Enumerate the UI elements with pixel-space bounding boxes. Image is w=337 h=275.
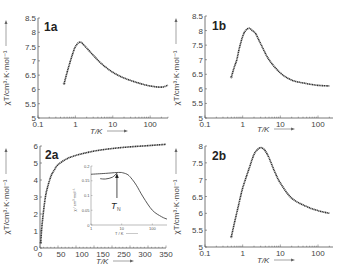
panel-2b: 55.566.577.580.11101002bχT/cm³·K·mol⁻¹T/… xyxy=(172,142,333,265)
y-tick-label: 8 xyxy=(199,27,204,36)
y-tick-label: 6 xyxy=(199,85,204,94)
x-axis-label: T/K xyxy=(96,257,109,266)
x-tick-label: 1 xyxy=(240,120,245,129)
x-tick-label: 250 xyxy=(117,250,131,259)
x-tick-label: 0.1 xyxy=(199,120,211,129)
data-series xyxy=(231,148,329,237)
y-tick-label: 4 xyxy=(34,176,39,185)
x-tick-label: 100 xyxy=(143,120,157,129)
y-tick-label: 7.5 xyxy=(25,43,37,52)
x-axis-label: T/K xyxy=(257,256,270,265)
y-tick-label: 6.5 xyxy=(192,70,204,79)
inset-x-axis-label: T / K xyxy=(115,231,124,236)
y-tick-label: 7 xyxy=(199,56,204,65)
x-tick-label: 0 xyxy=(38,250,43,259)
x-tick-label: 10 xyxy=(276,249,285,258)
y-tick-label: 6 xyxy=(32,85,37,94)
y-axis-label: χT/cm³·K·mol⁻¹ xyxy=(2,179,11,234)
x-tick-label: 1 xyxy=(73,120,78,129)
x-tick-label: 10 xyxy=(276,120,285,129)
x-tick-label: 50 xyxy=(57,250,66,259)
x-axis-label: T/K xyxy=(257,125,270,134)
data-series xyxy=(231,28,329,86)
panel-label: 2b xyxy=(212,149,226,163)
y-tick-label: 8.5 xyxy=(25,14,37,23)
data-series xyxy=(64,42,168,87)
x-tick-label: 350 xyxy=(159,250,173,259)
panel-label: 1b xyxy=(212,19,226,33)
y-tick-label: 7 xyxy=(199,176,204,185)
y-tick-label: 8 xyxy=(32,28,37,37)
panel-1b: 55.566.577.588.50.11101001bχT/cm³·K·mol⁻… xyxy=(172,12,333,134)
y-tick-label: 8 xyxy=(199,142,204,151)
y-tick-label: 6 xyxy=(34,142,39,151)
panel-label: 2a xyxy=(45,148,59,162)
y-axis-label: χT/cm³·K·mol⁻¹ xyxy=(172,179,181,234)
y-tick-label: 5.5 xyxy=(25,100,37,109)
y-tick-label: 6.5 xyxy=(25,71,37,80)
inset-y-tick-label: 0.2 xyxy=(84,164,90,169)
y-tick-label: 1 xyxy=(34,227,39,236)
x-tick-label: 100 xyxy=(311,120,325,129)
panel-label: 1a xyxy=(44,20,58,34)
y-tick-label: 5.5 xyxy=(192,226,204,235)
y-tick-label: 8.5 xyxy=(192,12,204,21)
panel-2a: 01234560501001502503003502aχT/cm³·K·mol⁻… xyxy=(2,142,173,266)
y-tick-label: 6 xyxy=(199,209,204,218)
tn-annotation-subscript: N xyxy=(117,206,121,212)
magnetic-susceptibility-figure: 55.566.577.588.50.11101001aχT/cm³·K·mol⁻… xyxy=(0,0,337,275)
inset-y-tick-label: 0.15 xyxy=(82,178,91,183)
inset-y-tick-label: 0.05 xyxy=(82,208,91,213)
y-axis-label: χT/cm³·K·mol⁻¹ xyxy=(2,50,11,105)
y-axis-label: χT/cm³·K·mol⁻¹ xyxy=(172,50,181,105)
y-tick-label: 5.5 xyxy=(192,99,204,108)
x-tick-label: 300 xyxy=(138,250,152,259)
inset-y-tick-label: 0.1 xyxy=(84,193,90,198)
x-axis-label: T/K xyxy=(90,127,103,136)
y-tick-label: 3 xyxy=(34,193,39,202)
inset-y-axis-label: χ / cm³·mol⁻¹ xyxy=(72,188,77,212)
x-tick-label: 10 xyxy=(108,120,117,129)
inset-plot: 00.050.10.150.2110100T / Kχ / cm³·mol⁻¹T… xyxy=(72,163,167,236)
x-tick-label: 0.1 xyxy=(199,249,211,258)
x-tick-label: 100 xyxy=(311,249,325,258)
x-tick-label: 1 xyxy=(240,249,245,258)
x-tick-label: 100 xyxy=(75,250,89,259)
x-tick-label: 0.1 xyxy=(32,120,44,129)
y-tick-label: 7.5 xyxy=(192,159,204,168)
inset-x-tick-label: 100 xyxy=(149,226,156,231)
y-tick-label: 7.5 xyxy=(192,41,204,50)
y-tick-label: 6.5 xyxy=(192,193,204,202)
panel-1a: 55.566.577.588.50.11101001aχT/cm³·K·mol⁻… xyxy=(2,14,168,136)
y-tick-label: 2 xyxy=(34,210,39,219)
y-tick-label: 5 xyxy=(34,159,39,168)
y-tick-label: 7 xyxy=(32,57,37,66)
inset-x-tick-label: 1 xyxy=(90,226,93,231)
